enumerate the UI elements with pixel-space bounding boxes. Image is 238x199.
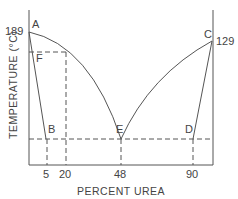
x-axis-title: PERCENT UREA [77, 186, 165, 197]
y-tick-129: 129 [216, 36, 234, 47]
solidus-line-ab [29, 32, 46, 139]
solidus-line-cd [193, 41, 212, 139]
x-tick-5: 5 [43, 169, 49, 180]
point-label-f: F [36, 53, 43, 64]
point-label-e: E [116, 124, 123, 135]
liquidus-curve-ae [29, 32, 121, 139]
x-tick-48: 48 [114, 169, 126, 180]
x-tick-90: 90 [186, 169, 198, 180]
point-label-d: D [185, 124, 193, 135]
point-label-a: A [32, 19, 39, 30]
point-label-b: B [48, 124, 55, 135]
point-label-c: C [204, 29, 212, 40]
x-tick-20: 20 [59, 169, 71, 180]
y-axis-title: TEMPERATURE (°C) [8, 31, 19, 139]
liquidus-curve-ce [121, 41, 212, 139]
